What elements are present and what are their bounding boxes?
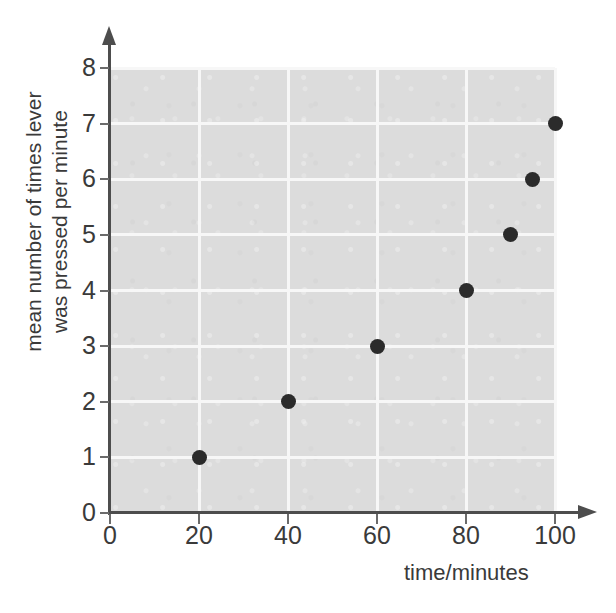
y-axis-line [108,40,111,515]
y-axis-tick-label-text: 0 [62,500,96,525]
x-axis-arrow-icon [578,505,597,519]
data-point [192,450,207,465]
gridline-vertical [287,68,290,513]
x-axis-tick-label: 0 [70,523,150,548]
y-axis-tick [100,178,109,180]
gridline-horizontal [110,233,555,236]
x-axis-tick-label: 80 [426,523,506,548]
data-point [548,116,563,131]
gridline-horizontal [110,289,555,292]
gridline-vertical [554,68,557,513]
y-axis-tick-label-text: 1 [62,444,96,469]
gridline-horizontal [110,122,555,125]
data-point [503,227,518,242]
x-axis-tick-label: 40 [248,523,328,548]
y-axis-title-line-1: mean number of times lever [21,87,47,357]
y-axis-tick [100,67,109,69]
gridline-horizontal [110,400,555,403]
y-axis-title-line-2: was pressed per minute [47,87,73,357]
x-axis-tick-label: 20 [159,523,239,548]
data-point [281,394,296,409]
y-axis-title: mean number of times lever was pressed p… [21,87,72,357]
y-axis-tick [100,345,109,347]
x-axis-line [108,511,582,514]
y-axis-tick-label-text: 8 [62,55,96,80]
y-axis-tick [100,456,109,458]
gridline-vertical [198,68,201,513]
y-axis-tick [100,123,109,125]
gridline-vertical [376,68,379,513]
y-axis-tick [100,401,109,403]
x-axis-tick-label: 60 [337,523,417,548]
x-axis-title: time/minutes [404,560,529,586]
gridline-horizontal [110,345,555,348]
gridline-horizontal [110,67,555,70]
gridline-horizontal [110,178,555,181]
data-point [525,172,540,187]
data-point [459,283,474,298]
data-point [370,339,385,354]
y-axis-tick [100,512,109,514]
y-axis-arrow-icon [102,26,116,45]
y-axis-tick-label-text: 2 [62,389,96,414]
x-axis-tick-label: 100 [515,523,595,548]
plot-area [110,68,555,513]
scatter-plot-figure: 012345678 020406080100 time/minutes mean… [0,0,616,613]
gridline-horizontal [110,456,555,459]
y-axis-tick [100,234,109,236]
y-axis-tick [100,290,109,292]
